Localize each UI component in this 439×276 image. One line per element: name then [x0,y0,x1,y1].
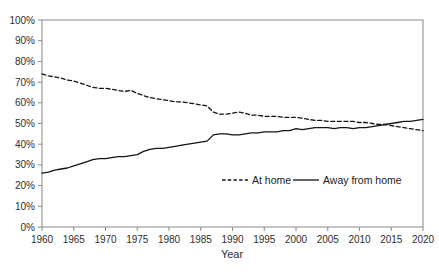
y-tick-label: 60% [15,97,35,108]
y-tick-label: 100% [9,15,35,26]
x-tick-label: 1990 [221,234,244,245]
y-tick-label: 90% [15,35,35,46]
series-at-home-line [42,74,423,131]
line-chart: 0%10%20%30%40%50%60%70%80%90%100%1960196… [0,0,439,276]
x-tick-label: 1985 [190,234,213,245]
x-tick-label: 2020 [412,234,435,245]
y-tick-label: 40% [15,139,35,150]
y-tick-label: 50% [15,118,35,129]
x-tick-label: 1970 [94,234,117,245]
series-away-from-home-line [42,119,423,173]
y-tick-label: 0% [21,222,36,233]
x-tick-label: 2010 [348,234,371,245]
x-tick-label: 1980 [158,234,181,245]
chart-figure: 0%10%20%30%40%50%60%70%80%90%100%1960196… [0,0,439,276]
x-tick-label: 1965 [63,234,86,245]
y-tick-label: 30% [15,159,35,170]
x-tick-label: 1960 [31,234,54,245]
y-tick-label: 10% [15,201,35,212]
legend-at-home-label: At home [252,174,291,186]
x-axis-title: Year [221,248,244,260]
x-tick-label: 1995 [253,234,276,245]
x-tick-label: 2015 [380,234,403,245]
x-tick-label: 2000 [285,234,308,245]
y-tick-label: 80% [15,56,35,67]
y-tick-label: 70% [15,77,35,88]
y-tick-label: 20% [15,180,35,191]
x-tick-label: 2005 [317,234,340,245]
legend-away-from-home-label: Away from home [323,174,402,186]
x-tick-label: 1975 [126,234,149,245]
plot-border [42,20,423,227]
